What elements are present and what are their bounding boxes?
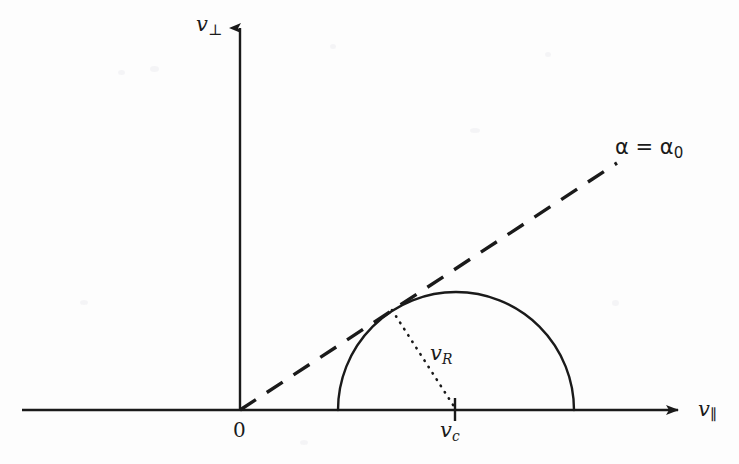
vr-label-symbol: v bbox=[430, 341, 442, 365]
x-axis-label: v∥ bbox=[698, 399, 717, 423]
y-axis-label-subscript: ⊥ bbox=[208, 21, 222, 39]
pitch-angle-label-subscript: 0 bbox=[674, 144, 684, 162]
y-axis-label: v⊥ bbox=[196, 14, 222, 38]
vc-label-symbol: v bbox=[440, 418, 452, 442]
y-axis-label-symbol: v bbox=[196, 12, 208, 36]
pitch-angle-label: α = α0 bbox=[615, 137, 683, 161]
vc-label: vc bbox=[440, 420, 460, 444]
x-axis-label-subscript: ∥ bbox=[710, 406, 717, 424]
x-axis-label-symbol: v bbox=[698, 397, 710, 421]
vr-label-subscript: R bbox=[442, 351, 452, 367]
vr-label: vR bbox=[430, 343, 452, 367]
diagram-canvas bbox=[0, 0, 739, 464]
pitch-angle-label-text: α = α bbox=[615, 135, 674, 159]
origin-label: 0 bbox=[233, 420, 246, 440]
velocity-space-diagram: v⊥ v∥ 0 vc vR α = α0 bbox=[0, 0, 739, 464]
resonance-semicircle bbox=[338, 292, 574, 410]
constant-pitch-angle-line bbox=[240, 163, 617, 410]
vc-label-subscript: c bbox=[452, 428, 460, 444]
